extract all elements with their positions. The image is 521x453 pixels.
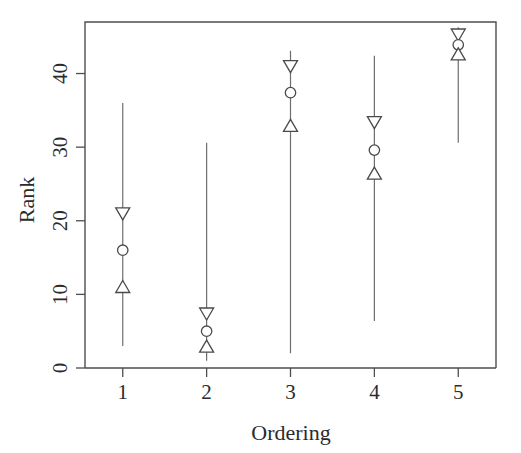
triangle-down-marker xyxy=(284,61,298,73)
x-tick-labels: 12345 xyxy=(117,380,463,404)
interval-lines xyxy=(123,27,459,360)
y-tick-label: 0 xyxy=(48,363,72,374)
x-tick-label: 3 xyxy=(285,380,296,404)
x-tick-label: 4 xyxy=(369,380,380,404)
triangle-up-marker xyxy=(284,119,298,131)
x-tick-label: 1 xyxy=(117,380,128,404)
y-axis-ticks xyxy=(76,74,85,368)
triangle-up-marker xyxy=(451,48,465,60)
x-axis-ticks xyxy=(123,368,459,377)
y-tick-label: 10 xyxy=(48,284,72,305)
y-tick-labels: 010203040 xyxy=(48,63,72,373)
y-tick-label: 40 xyxy=(48,63,72,84)
y-tick-label: 20 xyxy=(48,210,72,231)
x-tick-label: 5 xyxy=(453,380,464,404)
circle-marker xyxy=(369,145,379,155)
circle-marker xyxy=(201,326,211,336)
x-tick-label: 2 xyxy=(201,380,212,404)
triangle-down-marker xyxy=(367,117,381,129)
chart-canvas: 010203040 12345 Ordering Rank xyxy=(0,0,521,453)
rank-vs-ordering-chart: 010203040 12345 Ordering Rank xyxy=(0,0,521,453)
x-axis-title: Ordering xyxy=(251,420,330,445)
triangle-up-marker xyxy=(367,167,381,179)
y-tick-label: 30 xyxy=(48,137,72,158)
triangle-up-marker xyxy=(200,340,214,352)
triangle-up-marker xyxy=(116,281,130,293)
triangle-down-marker xyxy=(200,308,214,320)
y-axis-title: Rank xyxy=(14,177,39,223)
circle-marker xyxy=(285,87,295,97)
triangle-down-marker xyxy=(116,208,130,220)
circle-marker xyxy=(118,245,128,255)
